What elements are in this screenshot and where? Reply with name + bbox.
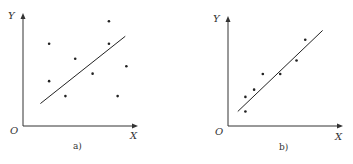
chart-a-x-axis-label: X [129, 130, 138, 141]
chart-b-x-axis-arrow-icon [337, 124, 343, 129]
chart-b-point-0 [304, 38, 307, 41]
chart-a-y-axis-label: Y [8, 10, 16, 21]
chart-a-point-2 [108, 42, 111, 45]
chart-b-regression-line [238, 30, 323, 111]
chart-b-y-axis-arrow-icon [226, 16, 231, 22]
chart-a-point-3 [74, 57, 77, 60]
chart-b-y-axis-label: Y [213, 13, 221, 24]
chart-b: Y O X b) [213, 13, 343, 152]
chart-b-point-2 [279, 73, 282, 76]
chart-b-x-axis-label: X [334, 131, 343, 142]
scatter-figure: Y O X a) Y O X b) [0, 0, 353, 164]
chart-b-point-5 [244, 96, 247, 99]
chart-a: Y O X a) [8, 10, 138, 151]
chart-a-point-6 [48, 80, 51, 83]
chart-a-point-0 [48, 42, 51, 45]
chart-b-caption: b) [279, 142, 288, 152]
chart-a-point-8 [116, 95, 119, 98]
chart-b-point-1 [295, 59, 298, 62]
chart-a-point-7 [64, 95, 67, 98]
chart-a-point-1 [108, 20, 111, 23]
chart-b-point-4 [253, 88, 256, 91]
chart-a-y-axis-arrow-icon [21, 13, 26, 19]
chart-a-point-4 [91, 72, 94, 75]
chart-b-origin-label: O [215, 126, 223, 137]
chart-a-caption: a) [73, 141, 82, 151]
chart-a-x-axis-arrow-icon [132, 124, 138, 129]
chart-a-origin-label: O [10, 125, 18, 136]
chart-a-point-5 [125, 65, 128, 68]
chart-a-regression-line [40, 36, 125, 103]
chart-b-point-3 [262, 73, 265, 76]
chart-b-point-6 [244, 110, 247, 113]
